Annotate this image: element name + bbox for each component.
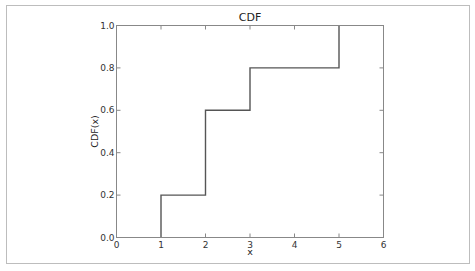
plot-area (117, 26, 384, 238)
cdf-chart: CDF x CDF(x) 01234560.00.20.40.60.81.0 (0, 0, 475, 271)
x-tick-label: 4 (292, 240, 298, 250)
y-tick-label: 0.0 (100, 233, 115, 243)
y-tick-label: 0.4 (100, 148, 115, 158)
x-tick-label: 0 (114, 240, 120, 250)
x-tick-label: 2 (203, 240, 209, 250)
y-tick-label: 0.6 (100, 105, 115, 115)
y-tick-label: 1.0 (100, 21, 115, 31)
y-tick-label: 0.2 (100, 190, 114, 200)
series-layer (161, 26, 339, 238)
y-tick-label: 0.8 (100, 63, 115, 73)
ticks-layer: 01234560.00.20.40.60.81.0 (100, 21, 386, 250)
y-axis-label: CDF(x) (89, 115, 100, 147)
x-tick-label: 6 (381, 240, 387, 250)
x-tick-label: 5 (336, 240, 342, 250)
x-tick-label: 3 (247, 240, 253, 250)
x-tick-label: 1 (158, 240, 164, 250)
cdf-step-line (161, 26, 339, 238)
chart-title: CDF (239, 11, 261, 24)
